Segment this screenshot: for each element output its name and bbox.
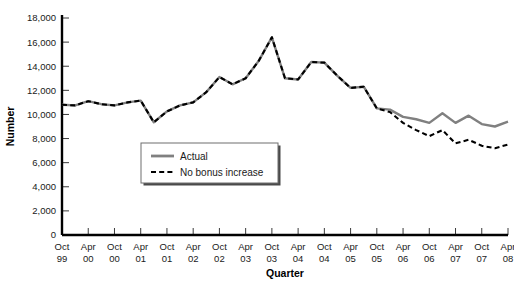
y-axis-tick-label: 14,000 (27, 61, 56, 72)
svg-text:07: 07 (476, 253, 487, 264)
series-line-no-bonus-increase (62, 37, 508, 148)
svg-text:06: 06 (398, 253, 409, 264)
x-axis-tick-label: Oct02 (212, 241, 227, 264)
x-axis-tick-label: Oct06 (422, 241, 437, 264)
svg-text:Apr: Apr (238, 241, 253, 252)
svg-text:05: 05 (345, 253, 356, 264)
svg-text:04: 04 (293, 253, 304, 264)
svg-text:Oct: Oct (474, 241, 489, 252)
x-axis-tick-label: Apr02 (186, 241, 201, 264)
legend-label-1: No bonus increase (180, 167, 264, 178)
svg-text:Oct: Oct (55, 241, 70, 252)
svg-text:00: 00 (109, 253, 120, 264)
line-chart: 02,0004,0006,0008,00010,00012,00014,0001… (0, 0, 514, 285)
svg-text:Apr: Apr (291, 241, 306, 252)
x-axis-title: Quarter (266, 267, 304, 279)
x-axis-tick-label: Apr01 (133, 241, 148, 264)
svg-text:Apr: Apr (133, 241, 148, 252)
svg-text:Oct: Oct (422, 241, 437, 252)
x-axis-tick-label: Oct04 (317, 241, 332, 264)
legend-label-0: Actual (180, 151, 208, 162)
svg-text:00: 00 (83, 253, 94, 264)
svg-text:Apr: Apr (186, 241, 201, 252)
y-axis-title: Number (4, 107, 16, 147)
svg-text:03: 03 (240, 253, 251, 264)
x-axis-tick-label: Apr04 (291, 241, 306, 264)
svg-text:Apr: Apr (396, 241, 411, 252)
x-axis-tick-label: Apr07 (448, 241, 463, 264)
x-axis-tick-label: Oct00 (107, 241, 122, 264)
x-axis-tick-label: Apr06 (396, 241, 411, 264)
x-axis-tick-label: Oct01 (160, 241, 175, 264)
svg-text:01: 01 (162, 253, 173, 264)
chart-container: 02,0004,0006,0008,00010,00012,00014,0001… (0, 0, 514, 285)
svg-text:99: 99 (57, 253, 68, 264)
svg-text:05: 05 (372, 253, 383, 264)
x-axis-tick-label: Oct99 (55, 241, 70, 264)
y-axis-tick-label: 2,000 (32, 205, 56, 216)
y-axis-tick-label: 8,000 (32, 133, 56, 144)
x-axis-tick-label: Apr03 (238, 241, 253, 264)
svg-text:02: 02 (188, 253, 199, 264)
y-axis-tick-label: 0 (51, 229, 56, 240)
svg-text:07: 07 (450, 253, 461, 264)
svg-text:04: 04 (319, 253, 330, 264)
svg-text:01: 01 (135, 253, 146, 264)
svg-text:Oct: Oct (317, 241, 332, 252)
svg-text:Apr: Apr (501, 241, 514, 252)
svg-text:02: 02 (214, 253, 225, 264)
x-axis-tick-label: Apr00 (81, 241, 96, 264)
y-axis-tick-label: 6,000 (32, 157, 56, 168)
svg-text:Oct: Oct (264, 241, 279, 252)
y-axis-tick-label: 12,000 (27, 85, 56, 96)
svg-text:06: 06 (424, 253, 435, 264)
svg-text:03: 03 (267, 253, 278, 264)
x-axis-tick-label: Oct07 (474, 241, 489, 264)
x-axis-tick-label: Apr08 (501, 241, 514, 264)
y-axis-tick-label: 4,000 (32, 181, 56, 192)
svg-text:Oct: Oct (107, 241, 122, 252)
y-axis-tick-label: 16,000 (27, 37, 56, 48)
svg-text:Apr: Apr (81, 241, 96, 252)
x-axis-tick-label: Apr05 (343, 241, 358, 264)
svg-text:Apr: Apr (343, 241, 358, 252)
series-line-actual (62, 37, 508, 126)
svg-text:Oct: Oct (369, 241, 384, 252)
chart-legend: ActualNo bonus increase (141, 143, 281, 186)
svg-text:08: 08 (503, 253, 514, 264)
x-axis-tick-label: Oct05 (369, 241, 384, 264)
svg-text:Apr: Apr (448, 241, 463, 252)
x-axis-tick-label: Oct03 (264, 241, 279, 264)
svg-text:Oct: Oct (212, 241, 227, 252)
y-axis-tick-label: 10,000 (27, 109, 56, 120)
y-axis-tick-label: 18,000 (27, 12, 56, 23)
svg-text:Oct: Oct (160, 241, 175, 252)
